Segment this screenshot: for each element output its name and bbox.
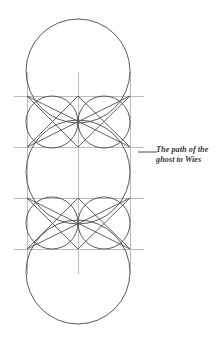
- annotation-label-line-1: The path of the: [156, 145, 217, 155]
- diagram-background: [0, 0, 217, 337]
- annotation-label: The path of the ghost to Wies: [156, 145, 217, 164]
- figure-root: The path of the ghost to Wies: [0, 0, 217, 337]
- geometric-diagram: [0, 0, 217, 337]
- annotation-label-line-2: ghost to Wies: [156, 155, 217, 165]
